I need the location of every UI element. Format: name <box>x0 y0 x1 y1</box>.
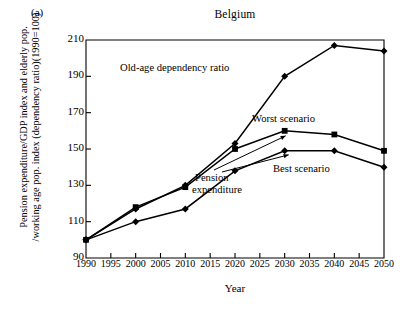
y-tick-label: 170 <box>68 105 85 117</box>
x-axis-tick-labels: 1990199520002005201020152020202520302035… <box>0 258 408 274</box>
marker-diamond <box>381 47 388 54</box>
marker-diamond <box>381 164 388 171</box>
marker-diamond <box>132 218 139 225</box>
annotation-best-scenario: Best scenario <box>273 163 330 175</box>
x-axis-label: Year <box>86 282 384 294</box>
figure-panel: (a) Belgium Pension expenditure/GDP inde… <box>0 0 408 309</box>
marker-diamond <box>331 147 338 154</box>
marker-square <box>182 184 188 190</box>
marker-square <box>282 128 288 134</box>
annotation-worst-scenario: Worst scenario <box>252 113 315 125</box>
x-tick-label: 2010 <box>175 258 195 269</box>
x-tick-label: 1990 <box>76 258 96 269</box>
chart-title: Belgium <box>86 8 384 20</box>
annotation-old-age-dependency-ratio: Old-age dependency ratio <box>120 62 229 74</box>
x-tick-label: 2035 <box>300 258 320 269</box>
x-tick-label: 2020 <box>225 258 245 269</box>
x-tick-label: 2015 <box>200 258 220 269</box>
x-tick-label: 2050 <box>374 258 394 269</box>
y-tick-label: 150 <box>68 141 85 153</box>
marker-square <box>133 204 139 210</box>
x-tick-label: 2005 <box>151 258 171 269</box>
x-tick-label: 1995 <box>101 258 121 269</box>
marker-square <box>331 132 337 138</box>
x-tick-label: 2045 <box>349 258 369 269</box>
y-tick-label: 190 <box>68 68 85 80</box>
panel-label: (a) <box>31 6 43 18</box>
y-tick-label: 110 <box>68 214 84 226</box>
annotation-pension-expenditure-line1: Pension <box>195 172 229 184</box>
y-tick-label: 130 <box>68 177 85 189</box>
marker-square <box>232 146 238 152</box>
x-tick-label: 2040 <box>324 258 344 269</box>
x-tick-label: 2025 <box>250 258 270 269</box>
marker-diamond <box>281 147 288 154</box>
x-tick-label: 2030 <box>275 258 295 269</box>
marker-diamond <box>331 42 338 49</box>
x-tick-label: 2000 <box>126 258 146 269</box>
marker-square <box>381 148 387 154</box>
annotation-pension-expenditure-line2: expenditure <box>192 184 242 196</box>
y-tick-label: 210 <box>68 32 85 44</box>
